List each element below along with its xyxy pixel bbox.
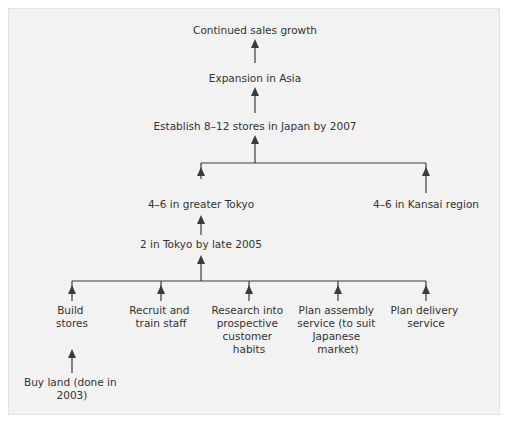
diagram-panel: Continued sales growth Expansion in Asia… xyxy=(8,8,500,415)
connector-expansion-to-goal xyxy=(251,39,259,63)
node-establish-stores-japan: Establish 8–12 stores in Japan by 2007 xyxy=(153,120,356,132)
connector-bar-to-establish xyxy=(251,135,259,163)
node-buy-land: Buy land (done in 2003) xyxy=(24,376,120,401)
node-expansion-in-asia: Expansion in Asia xyxy=(209,72,301,84)
node-two-in-tokyo-2005: 2 in Tokyo by late 2005 xyxy=(140,238,262,250)
connector-bus-to-tokyo2005 xyxy=(197,255,205,281)
connector-tokyo2005-to-tokyo xyxy=(197,215,205,235)
bus-bar-tokyo-kansai xyxy=(197,163,430,193)
node-greater-tokyo: 4–6 in greater Tokyo xyxy=(148,198,254,210)
node-recruit-train-staff: Recruit and train staff xyxy=(129,304,193,329)
node-plan-assembly-service: Plan assembly service (to suit Japanese … xyxy=(297,304,378,355)
bus-bar-leaf-tasks xyxy=(68,281,430,301)
node-build-stores: Build stores xyxy=(56,304,88,329)
node-plan-delivery-service: Plan delivery service xyxy=(390,304,461,329)
node-continued-sales-growth: Continued sales growth xyxy=(193,24,317,36)
connector-establish-to-expansion xyxy=(251,87,259,113)
node-research-customer-habits: Research into prospective customer habit… xyxy=(212,304,287,355)
strategy-tree-diagram: Continued sales growth Expansion in Asia… xyxy=(9,9,501,416)
connector-buyland-to-buildstores xyxy=(68,349,76,373)
node-kansai-region: 4–6 in Kansai region xyxy=(373,198,479,210)
